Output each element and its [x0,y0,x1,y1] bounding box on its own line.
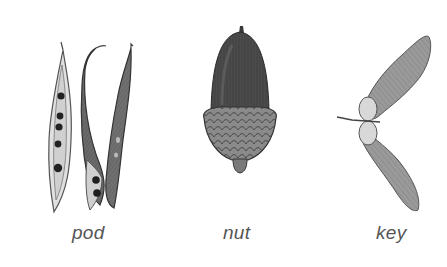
key-label: key [376,222,406,244]
nut-label: nut [223,222,250,244]
fruit-types-diagram: pod nut key [0,0,447,267]
pod-label: pod [72,222,105,244]
key-illustration [330,25,440,220]
pod-illustration [40,40,140,220]
nut-illustration [190,25,290,180]
